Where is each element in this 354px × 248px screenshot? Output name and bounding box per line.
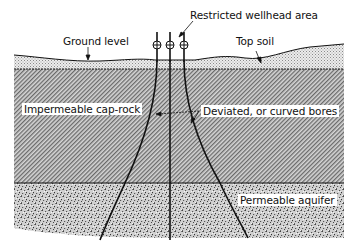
aquifer-layer — [14, 183, 344, 238]
label-deviated-bores: Deviated, or curved bores — [201, 105, 339, 117]
label-top-soil: Top soil — [236, 35, 274, 47]
wellhead-icon-1 — [153, 41, 161, 49]
wellhead-icon-2 — [166, 41, 174, 49]
topsoil-layer — [14, 44, 344, 69]
cross-section-diagram — [0, 0, 354, 248]
label-cap-rock: Impermeable cap-rock — [22, 103, 142, 115]
label-aquifer: Permeable aquifer — [238, 194, 337, 206]
label-ground-level: Ground level — [63, 35, 129, 47]
wellhead-symbols — [153, 41, 188, 49]
wellhead-icon-3 — [180, 41, 188, 49]
caprock-layer — [14, 69, 344, 183]
label-restricted-wellhead: Restricted wellhead area — [190, 9, 318, 21]
